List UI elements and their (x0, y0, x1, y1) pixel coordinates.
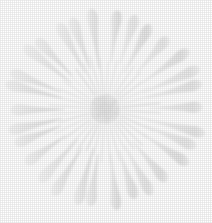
core-group (89, 93, 121, 125)
sunburst-canvas (0, 0, 212, 223)
radial-sunburst-figure (0, 0, 212, 223)
